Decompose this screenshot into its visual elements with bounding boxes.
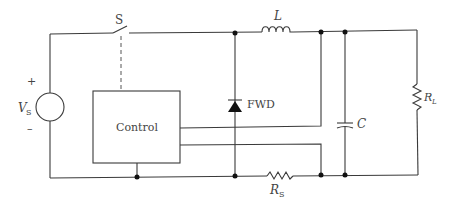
inductor-l — [262, 27, 417, 32]
capacitor-label: C — [357, 117, 366, 131]
sense-resistor-subscript: S — [279, 190, 284, 199]
circuit-diagram: S L FWD C R L R S V S + – Control — [0, 0, 450, 206]
schematic: S L FWD C R L R S V S + – Control — [0, 0, 450, 206]
source-plus: + — [27, 75, 36, 88]
control-label: Control — [116, 121, 158, 134]
switch-label: S — [115, 13, 123, 27]
voltage-source — [36, 34, 64, 178]
inductor-label: L — [273, 9, 282, 23]
capacitor-c — [337, 33, 353, 176]
diode-fwd — [228, 34, 242, 178]
feedback-output-wire — [180, 33, 321, 128]
source-subscript: S — [26, 108, 31, 117]
junction-nodes — [135, 30, 348, 180]
switch-s — [50, 26, 262, 34]
current-sense-wire — [180, 144, 321, 176]
sense-resistor-label: R — [269, 183, 279, 197]
load-resistor-label: R — [423, 91, 432, 104]
load-resistor-rl — [413, 30, 421, 175]
source-minus: – — [27, 122, 33, 135]
load-resistor-subscript: L — [431, 98, 437, 106]
diode-label: FWD — [247, 98, 275, 111]
